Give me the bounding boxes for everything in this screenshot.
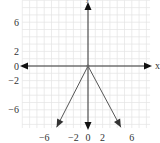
y-tick-label: −6 xyxy=(8,104,19,115)
y-axis-up-arrow-icon xyxy=(85,2,92,10)
y-tick-label: 2 xyxy=(14,46,19,57)
ray-left xyxy=(57,66,88,127)
x-axis-label: x xyxy=(155,60,160,71)
x-axis-left-arrow-icon xyxy=(20,63,28,70)
y-axis-down-arrow-icon xyxy=(85,122,92,130)
x-tick-label: −2 xyxy=(68,132,79,143)
x-tick-label: 0 xyxy=(86,132,91,143)
y-tick-label: 0 xyxy=(14,61,19,72)
x-axis-right-arrow-icon xyxy=(144,63,152,70)
coordinate-plane: x y −6−2026620−2−6 xyxy=(0,0,160,143)
grid xyxy=(22,0,150,128)
y-axis-label: y xyxy=(86,0,89,3)
x-tick-label: 2 xyxy=(100,132,105,143)
origin-point xyxy=(86,64,89,67)
y-tick-label: 6 xyxy=(14,17,19,28)
y-tick-label: −2 xyxy=(8,75,19,86)
x-tick-label: −6 xyxy=(39,132,50,143)
x-tick-label: 6 xyxy=(129,132,134,143)
ray-right xyxy=(88,66,121,127)
